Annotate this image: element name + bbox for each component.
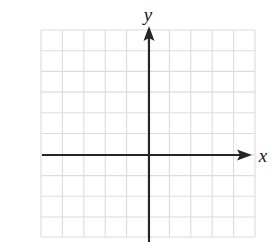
- x-axis: [42, 150, 252, 161]
- plot-svg: x y: [0, 0, 280, 242]
- coordinate-plane-figure: x y: [0, 0, 280, 242]
- x-axis-label: x: [258, 145, 268, 166]
- y-axis-label: y: [142, 4, 153, 25]
